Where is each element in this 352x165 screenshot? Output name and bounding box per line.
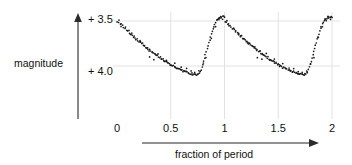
data-point <box>133 35 135 37</box>
data-point <box>137 40 139 42</box>
data-point <box>257 57 259 59</box>
data-point <box>311 61 313 63</box>
data-point <box>150 50 152 52</box>
data-point <box>324 20 326 22</box>
data-point <box>317 37 319 39</box>
data-point <box>322 21 324 23</box>
data-point <box>247 42 249 44</box>
data-point <box>305 73 307 75</box>
data-point <box>266 57 268 59</box>
data-point <box>147 49 149 51</box>
data-point <box>297 71 299 73</box>
data-point <box>254 46 256 48</box>
y-tick-label-4-0: + 4.0 <box>88 65 113 77</box>
data-point <box>320 26 322 28</box>
data-point <box>313 57 315 59</box>
data-point <box>213 26 215 28</box>
data-point <box>261 53 263 55</box>
data-point <box>211 38 213 40</box>
data-point <box>122 24 124 26</box>
data-point <box>136 38 138 40</box>
data-point <box>122 27 124 29</box>
data-point <box>203 62 205 64</box>
data-point <box>203 60 205 62</box>
data-point <box>144 45 146 47</box>
data-point <box>326 18 328 20</box>
data-point <box>130 34 132 36</box>
data-point <box>207 48 209 50</box>
data-point <box>308 69 310 71</box>
data-point <box>120 23 122 25</box>
data-point <box>157 53 159 55</box>
data-point <box>120 26 122 28</box>
x-tick-label-2: 2 <box>312 122 352 134</box>
data-point <box>267 56 269 58</box>
data-point <box>209 39 211 41</box>
data-point <box>241 35 243 37</box>
data-point <box>319 30 321 32</box>
data-point <box>325 20 327 22</box>
data-point <box>186 68 188 70</box>
data-point <box>322 26 324 28</box>
data-point <box>211 33 213 35</box>
data-point <box>328 17 330 19</box>
data-point <box>249 42 251 44</box>
data-point <box>249 44 251 46</box>
data-point <box>286 68 288 70</box>
data-point <box>194 71 196 73</box>
data-point <box>315 42 317 44</box>
data-point <box>293 70 295 72</box>
data-point <box>142 42 144 44</box>
data-point <box>288 67 290 69</box>
data-point <box>309 66 311 68</box>
data-point <box>190 70 192 72</box>
data-point <box>311 57 313 59</box>
data-point <box>199 72 201 74</box>
data-point <box>180 66 182 68</box>
data-point <box>215 26 217 28</box>
data-point <box>153 59 155 61</box>
y-axis-arrow <box>74 13 82 119</box>
data-point <box>293 68 295 70</box>
data-point <box>238 34 240 36</box>
data-point <box>265 53 267 55</box>
data-point <box>306 70 308 72</box>
data-point <box>314 48 316 50</box>
data-point <box>116 21 118 23</box>
data-point <box>191 72 193 74</box>
data-point <box>313 50 315 52</box>
data-point <box>230 26 232 28</box>
data-point <box>147 47 149 49</box>
data-point <box>283 67 285 69</box>
data-point <box>202 64 204 66</box>
data-point <box>162 58 164 60</box>
data-point <box>282 63 284 65</box>
data-point <box>318 33 320 35</box>
data-point <box>235 30 237 32</box>
data-point <box>275 62 277 64</box>
x-tick-label-1-5: 1.5 <box>258 122 298 134</box>
gridlines <box>113 12 340 119</box>
data-point <box>273 61 275 63</box>
data-point <box>208 42 210 44</box>
data-point <box>201 66 203 68</box>
data-point <box>224 16 226 18</box>
data-point <box>205 57 207 59</box>
data-point <box>331 17 333 19</box>
data-point <box>128 30 130 32</box>
data-point <box>228 23 230 25</box>
data-point <box>118 22 120 24</box>
data-point <box>132 34 134 36</box>
data-point <box>222 18 224 20</box>
y-tick-label-3-5: + 3.5 <box>88 13 113 25</box>
data-point <box>214 24 216 26</box>
data-point <box>174 62 176 64</box>
data-point <box>274 62 276 64</box>
data-point <box>125 26 127 28</box>
data-point <box>261 58 263 60</box>
data-point <box>152 52 154 54</box>
data-point <box>209 36 211 38</box>
data-point <box>161 58 163 60</box>
data-point <box>212 30 214 32</box>
data-point <box>312 54 314 56</box>
